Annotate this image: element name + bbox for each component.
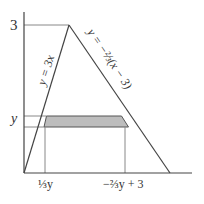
- y-tick-y: y: [9, 111, 18, 126]
- x-tick-third-y: ⅓y: [38, 177, 53, 191]
- shaded-strip: [44, 116, 129, 127]
- region-diagram: 3 y ⅓y −⅔y + 3 y = 3x y = −⅔(x − 3): [0, 0, 204, 204]
- line-right-boundary: [69, 25, 170, 173]
- label-y-equals-3x: y = 3x: [34, 53, 57, 88]
- x-tick-right: −⅔y + 3: [103, 177, 144, 191]
- line-y-equals-3x: [24, 25, 69, 173]
- y-tick-3: 3: [10, 17, 18, 33]
